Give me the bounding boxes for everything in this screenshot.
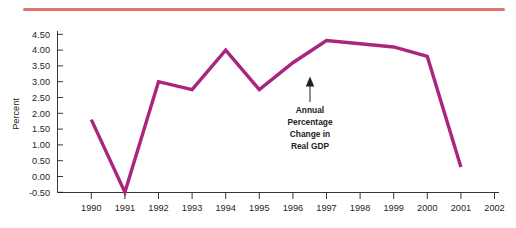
callout-line: Change in <box>290 129 330 139</box>
y-axis-tick-labels: 4.50 4.00 3.50 3.00 2.50 2.00 1.50 1.00 … <box>29 30 50 198</box>
series-callout: Annual Percentage Change in Real GDP <box>287 77 332 152</box>
y-axis-tick-marks <box>58 34 64 192</box>
x-tick-label: 1993 <box>182 203 202 213</box>
x-tick-label: 1994 <box>215 203 235 213</box>
x-tick-label: 2000 <box>417 203 437 213</box>
y-tick-label: 0.50 <box>32 156 50 166</box>
top-rule-divider <box>23 8 505 11</box>
y-tick-label: 0.00 <box>32 172 50 182</box>
y-tick-label: 4.00 <box>32 45 50 55</box>
data-series-line <box>91 41 461 193</box>
x-tick-label: 1992 <box>148 203 168 213</box>
up-arrow-icon <box>306 77 314 87</box>
x-tick-label: 1990 <box>81 203 101 213</box>
callout-line: Real GDP <box>291 141 330 151</box>
x-tick-label: 1995 <box>249 203 269 213</box>
y-tick-label: 3.00 <box>32 77 50 87</box>
chart-page: 4.50 4.00 3.50 3.00 2.50 2.00 1.50 1.00 … <box>0 0 516 228</box>
y-axis-title: Percent <box>11 98 21 130</box>
x-axis-tick-labels: 1990 1991 1992 1993 1994 1995 1996 1997 … <box>81 203 505 213</box>
x-tick-label: 2002 <box>484 203 504 213</box>
x-axis-tick-marks <box>91 193 494 200</box>
y-tick-label: 1.50 <box>32 124 50 134</box>
x-tick-label: 1996 <box>283 203 303 213</box>
y-tick-label: 2.50 <box>32 93 50 103</box>
line-chart: 4.50 4.00 3.50 3.00 2.50 2.00 1.50 1.00 … <box>0 14 516 228</box>
y-tick-label: -0.50 <box>29 188 50 198</box>
callout-line: Annual <box>296 105 324 115</box>
x-tick-label: 1999 <box>383 203 403 213</box>
x-tick-label: 1998 <box>350 203 370 213</box>
y-tick-label: 4.50 <box>32 30 50 40</box>
y-tick-label: 1.00 <box>32 140 50 150</box>
x-tick-label: 1991 <box>115 203 135 213</box>
y-tick-label: 3.50 <box>32 61 50 71</box>
y-tick-label: 2.00 <box>32 109 50 119</box>
callout-line: Percentage <box>287 117 332 127</box>
x-tick-label: 1997 <box>316 203 336 213</box>
chart-container: 4.50 4.00 3.50 3.00 2.50 2.00 1.50 1.00 … <box>0 14 516 228</box>
x-tick-label: 2001 <box>451 203 471 213</box>
